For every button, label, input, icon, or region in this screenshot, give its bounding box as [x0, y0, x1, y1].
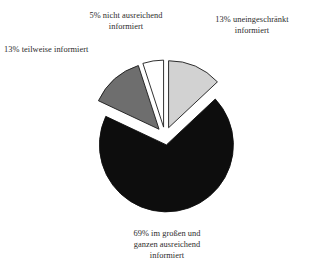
pie-chart-figure: 5% nicht ausreichend informiert 13% unei…: [0, 0, 310, 275]
slice-label-nicht-ausreichend: 5% nicht ausreichend informiert: [62, 10, 190, 32]
slice-label-im-grossen-und-ganzen: 69% im großen und ganzen ausreichend inf…: [108, 228, 226, 262]
slice-label-teilweise: 13% teilweise informiert: [4, 44, 120, 55]
slice-label-uneingeschraenkt: 13% uneingeschränkt informiert: [196, 14, 308, 36]
